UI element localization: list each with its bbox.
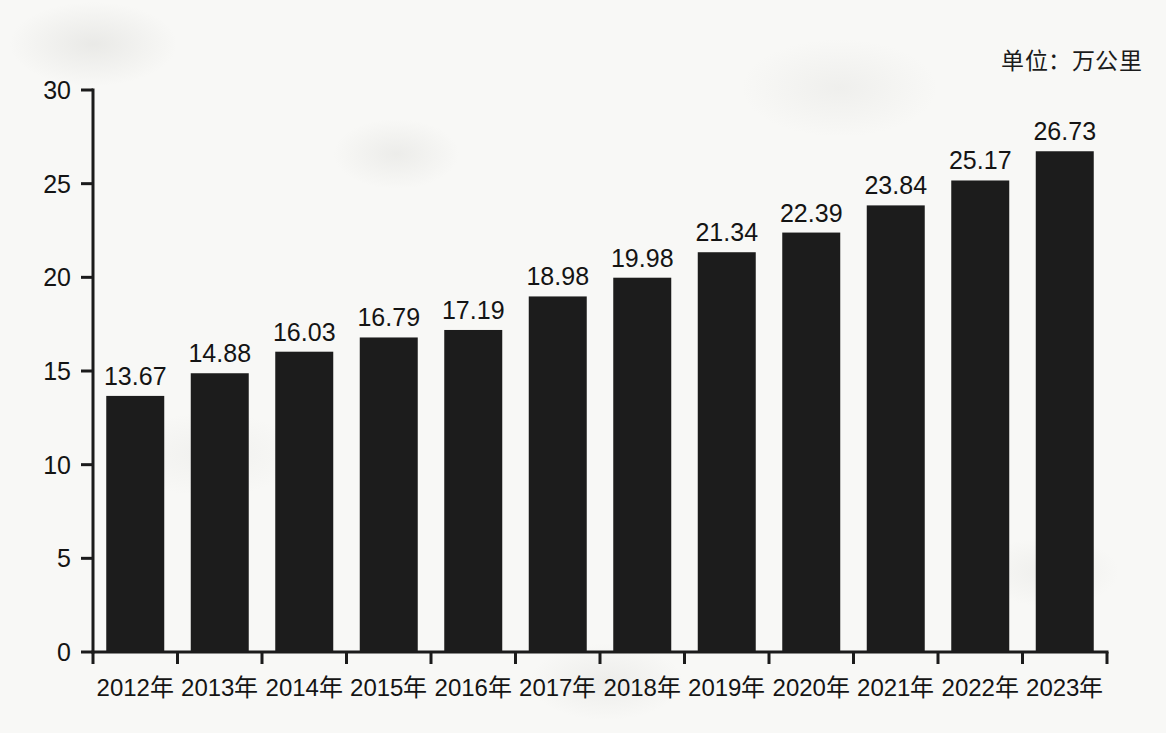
y-axis-tick-label: 5 bbox=[57, 544, 71, 572]
bar[interactable] bbox=[867, 205, 925, 652]
bar-value-label: 16.03 bbox=[273, 318, 336, 346]
bar-value-label: 26.73 bbox=[1033, 117, 1096, 145]
bar-value-label: 17.19 bbox=[442, 296, 505, 324]
bar[interactable] bbox=[613, 278, 671, 652]
x-axis-category-label: 2019年 bbox=[688, 674, 765, 701]
bar-value-label: 19.98 bbox=[611, 244, 674, 272]
bar-value-label: 25.17 bbox=[949, 146, 1012, 174]
bar[interactable] bbox=[698, 252, 756, 652]
bar[interactable] bbox=[529, 296, 587, 652]
bar-value-label: 21.34 bbox=[695, 218, 758, 246]
bar[interactable] bbox=[782, 233, 840, 652]
x-axis-category-label: 2014年 bbox=[266, 674, 343, 701]
x-axis-category-label: 2023年 bbox=[1026, 674, 1103, 701]
bar-value-label: 22.39 bbox=[780, 199, 843, 227]
x-axis bbox=[93, 652, 1107, 664]
bar[interactable] bbox=[1036, 151, 1094, 652]
y-axis-tick-label: 0 bbox=[57, 638, 71, 666]
y-axis-tick-label: 10 bbox=[43, 451, 71, 479]
bar-value-label: 13.67 bbox=[104, 362, 167, 390]
bar-value-label: 23.84 bbox=[864, 171, 927, 199]
bar[interactable] bbox=[444, 330, 502, 652]
x-axis-category-label: 2013年 bbox=[181, 674, 258, 701]
bar[interactable] bbox=[191, 373, 249, 652]
bar[interactable] bbox=[275, 352, 333, 652]
x-axis-tick-labels: 2012年2013年2014年2015年2016年2017年2018年2019年… bbox=[97, 674, 1104, 701]
y-axis-tick-label: 20 bbox=[43, 263, 71, 291]
chart-container: 单位：万公里 051015202530 13.6714.8816.0316.79… bbox=[0, 0, 1166, 733]
x-axis-category-label: 2017年 bbox=[519, 674, 596, 701]
x-axis-category-label: 2015年 bbox=[350, 674, 427, 701]
bar-value-label: 14.88 bbox=[188, 339, 251, 367]
x-axis-category-label: 2018年 bbox=[604, 674, 681, 701]
bar-value-label: 16.79 bbox=[357, 303, 420, 331]
bar-value-label: 18.98 bbox=[526, 262, 589, 290]
bar-chart-plot: 051015202530 13.6714.8816.0316.7917.1918… bbox=[0, 0, 1166, 733]
bar[interactable] bbox=[106, 396, 164, 652]
x-axis-category-label: 2012年 bbox=[97, 674, 174, 701]
y-axis-tick-label: 15 bbox=[43, 357, 71, 385]
y-axis-tick-label: 30 bbox=[43, 76, 71, 104]
bar[interactable] bbox=[951, 180, 1009, 652]
bar-series bbox=[106, 151, 1094, 652]
x-axis-category-label: 2020年 bbox=[773, 674, 850, 701]
x-axis-category-label: 2022年 bbox=[942, 674, 1019, 701]
x-axis-category-label: 2021年 bbox=[857, 674, 934, 701]
y-axis-tick-label: 25 bbox=[43, 170, 71, 198]
y-axis: 051015202530 bbox=[43, 76, 93, 666]
bar-value-labels: 13.6714.8816.0316.7917.1918.9819.9821.34… bbox=[104, 117, 1096, 390]
x-axis-category-label: 2016年 bbox=[435, 674, 512, 701]
bar[interactable] bbox=[360, 337, 418, 652]
